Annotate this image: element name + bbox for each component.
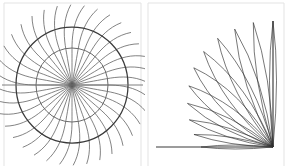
- radial-spoke: [55, 6, 72, 85]
- spindle-fan-canvas: [145, 0, 289, 168]
- radial-rose-canvas: [0, 0, 145, 168]
- radial-rose-panel: [0, 0, 145, 168]
- radial-spoke: [72, 85, 89, 164]
- spindle-fan-panel: [145, 0, 289, 168]
- figure-root: [0, 0, 289, 168]
- spindle-loop-group: [187, 21, 276, 149]
